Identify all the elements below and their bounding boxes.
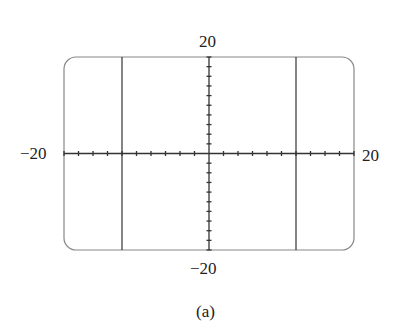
axes bbox=[64, 57, 354, 250]
calculator-screen bbox=[0, 0, 403, 333]
